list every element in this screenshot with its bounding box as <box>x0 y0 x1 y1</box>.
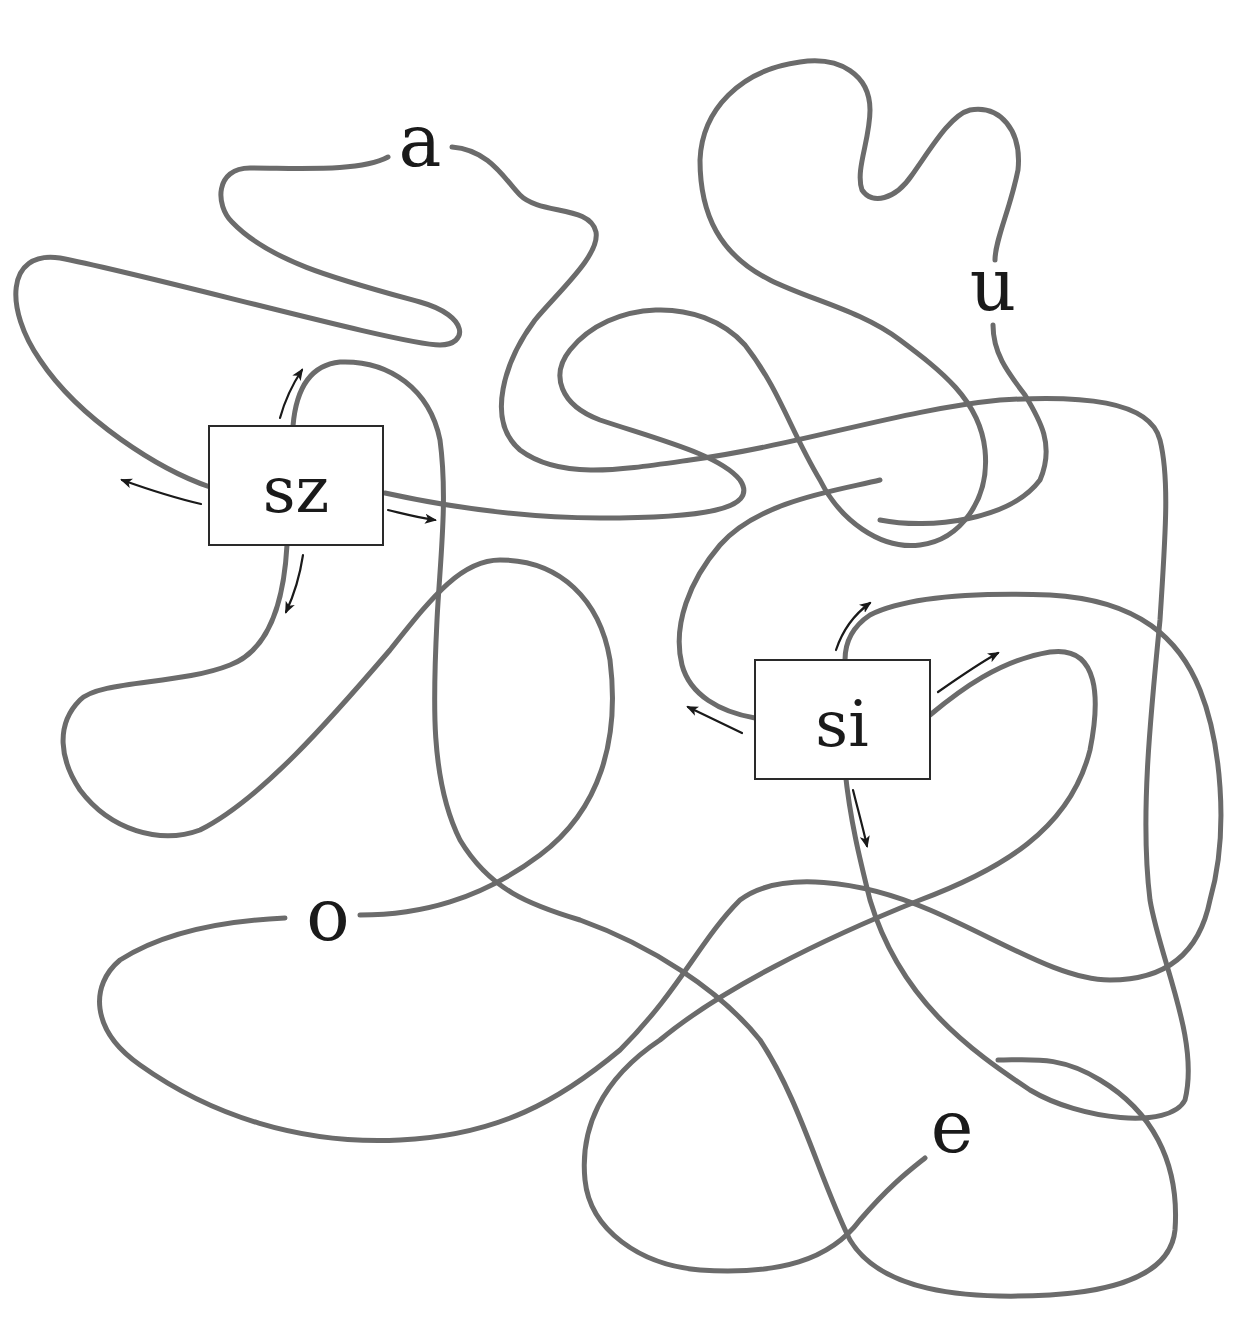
box-si-label: si <box>815 687 868 761</box>
label-e: e <box>931 1085 974 1169</box>
arrow-up-icon <box>836 603 870 650</box>
box-sz-label: sz <box>263 453 330 527</box>
box-sz[interactable]: sz <box>122 370 435 612</box>
arrow-right-icon <box>388 510 435 520</box>
arrow-down-icon <box>286 555 303 612</box>
strand-sz-down <box>63 545 612 915</box>
label-u: u <box>970 243 1016 327</box>
strand-sz-right <box>385 61 1018 546</box>
strand-u-bottom <box>880 325 1046 524</box>
label-a: a <box>399 99 442 183</box>
label-o: o <box>306 873 349 957</box>
strand-a-right <box>452 147 1188 1118</box>
tangle-diagram: sz si a u o e <box>0 0 1242 1337</box>
strand-o-left <box>100 594 1221 1140</box>
arrow-left-icon <box>122 480 201 504</box>
strands <box>16 61 1221 1296</box>
box-si[interactable]: si <box>688 603 998 846</box>
